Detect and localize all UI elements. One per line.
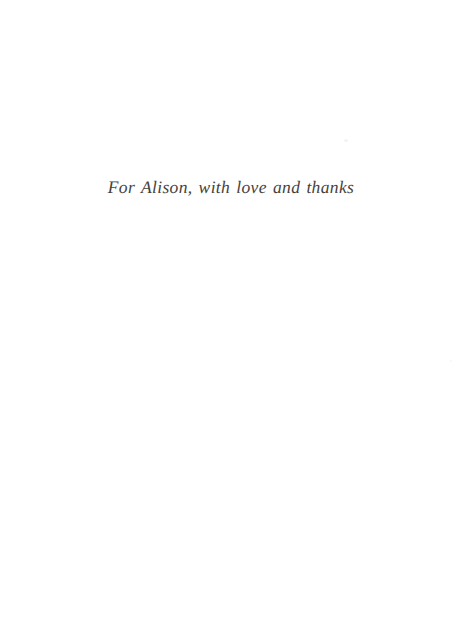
dedication-text: For Alison, with love and thanks bbox=[108, 176, 354, 198]
scan-speck-icon bbox=[450, 360, 452, 362]
dedication-block: For Alison, with love and thanks bbox=[0, 176, 468, 198]
scan-speck-icon bbox=[344, 139, 348, 142]
document-page: For Alison, with love and thanks bbox=[0, 0, 468, 630]
